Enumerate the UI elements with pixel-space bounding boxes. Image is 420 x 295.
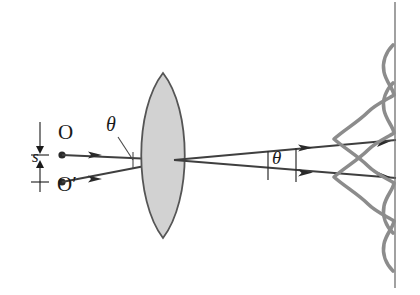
optics-diagram-canvas: O O′ s θ θ [0,0,420,295]
label-separation: s [32,148,39,165]
label-angle-image: θ [272,148,281,167]
angle-object-leader [118,137,133,168]
converging-lens [141,73,185,238]
label-angle-object: θ [106,114,116,134]
diagram-svg [0,0,420,295]
label-source-lower: O′ [57,174,77,195]
label-source-upper: O [58,122,73,143]
